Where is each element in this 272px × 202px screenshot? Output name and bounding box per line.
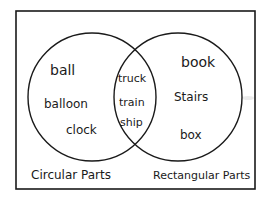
venn-diagram: ball balloon clock truck train ship book… [0, 0, 272, 202]
right-set-label: Rectangular Parts [153, 169, 250, 182]
left-item: balloon [44, 97, 88, 111]
left-item: clock [66, 123, 97, 137]
right-item: box [180, 128, 202, 142]
right-item: book [181, 54, 216, 70]
paper-smudge [242, 96, 254, 100]
intersection-item: truck [118, 72, 147, 85]
right-item: Stairs [174, 90, 208, 104]
left-set-label: Circular Parts [31, 168, 111, 182]
left-item: ball [50, 62, 75, 78]
intersection-item: train [119, 96, 145, 109]
intersection-item: ship [120, 116, 143, 129]
